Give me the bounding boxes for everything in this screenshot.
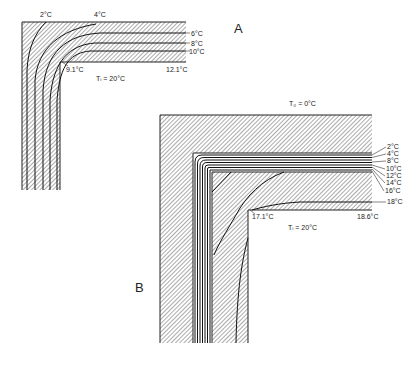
isotherm-label-a-8: 8°C [191, 40, 203, 47]
inside-temp-a: Tᵢ = 20°C [96, 75, 125, 82]
isotherm-label-b-2: 2°C [387, 143, 399, 150]
surface-temp-b-corner: 17.1°C [252, 213, 273, 220]
isotherm-label-b-10: 10°C [386, 165, 402, 172]
surface-temp-a-corner: 9.1°C [66, 66, 84, 73]
panel-a-label: A [234, 21, 243, 36]
panel-b-label: B [135, 280, 144, 295]
isotherm-label-b-16: 16°C [385, 187, 401, 194]
isotherm-label-b-18: 18°C [387, 198, 403, 205]
outside-temp-b: T₀ = 0°C [289, 100, 316, 107]
isotherm-label-a-4: 4°C [94, 11, 106, 18]
isotherm-label-b-8: 8°C [387, 157, 399, 164]
surface-temp-a-wall: 12.1°C [166, 66, 187, 73]
isotherm-label-a-6: 6°C [191, 30, 203, 37]
isotherm-label-a-2: 2°C [40, 11, 52, 18]
isotherm-label-b-12: 12°C [386, 172, 402, 179]
isotherm-label-b-14: 14°C [386, 179, 402, 186]
isotherm-diagram: 2°C 4°C 6°C 8°C 10°C 9.1°C 12.1°C Tᵢ = 2… [0, 0, 419, 367]
panel-b-outer-wall [160, 115, 372, 343]
panel-a: 2°C 4°C 6°C 8°C 10°C 9.1°C 12.1°C Tᵢ = 2… [22, 11, 243, 190]
panel-b: T₀ = 0°C 2°C 4°C 8°C 10°C 12°C 14°C 16°C… [135, 100, 403, 343]
surface-temp-b-wall: 18.6°C [357, 213, 378, 220]
isotherm-label-b-4: 4°C [387, 150, 399, 157]
inside-temp-b: Tᵢ = 20°C [288, 224, 317, 231]
isotherm-label-a-10: 10°C [189, 48, 205, 55]
panel-b-inner-wall [212, 172, 372, 343]
